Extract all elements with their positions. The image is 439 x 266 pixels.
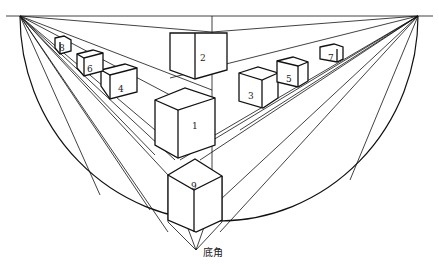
label-3: 3 [248, 91, 254, 101]
label-9: 9 [191, 181, 197, 191]
cube-5 [277, 57, 308, 87]
label-1: 1 [192, 121, 198, 131]
label-4: 4 [118, 84, 124, 94]
cube-1 [155, 88, 215, 158]
label-5: 5 [286, 74, 292, 84]
label-6: 6 [87, 64, 93, 74]
cube-2 [170, 33, 227, 79]
label-7: 7 [328, 53, 334, 63]
perspective-diagram: 2 1 9 4 6 8 3 5 7 底角 [0, 0, 439, 266]
bottom-vertex-label: 底角 [203, 246, 223, 258]
cube-9 [168, 159, 222, 232]
label-8: 8 [59, 43, 65, 53]
cube-3 [239, 67, 278, 108]
label-2: 2 [200, 53, 206, 63]
